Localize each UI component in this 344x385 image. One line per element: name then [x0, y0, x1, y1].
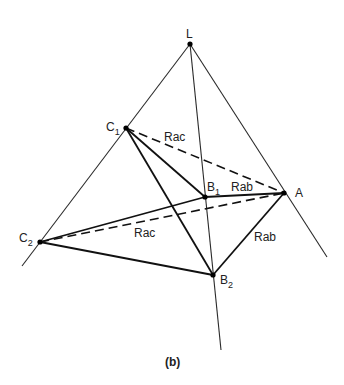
label-c2: C2 [19, 231, 33, 248]
label-rac-lower: Rac [134, 226, 155, 240]
ray-left [22, 44, 190, 266]
figure-caption: (b) [165, 355, 180, 369]
label-l: L [186, 27, 193, 41]
label-b2: B2 [220, 273, 233, 290]
label-c1: C1 [106, 120, 120, 137]
label-a: A [295, 186, 303, 200]
edge-c1-b2 [126, 128, 213, 275]
label-rab-upper: Rab [231, 180, 253, 194]
point-a [281, 190, 286, 195]
point-b2 [210, 272, 215, 277]
label-rab-lower: Rab [254, 230, 276, 244]
edge-c1-a-dashed [126, 128, 284, 193]
point-l [187, 41, 192, 46]
point-c2 [37, 239, 42, 244]
ray-right [190, 44, 327, 257]
label-rac-upper: Rac [164, 130, 185, 144]
point-b1 [202, 194, 207, 199]
geometry-diagram: L C1 B1 A C2 B2 Rac Rab Rac Rab (b) [0, 0, 344, 385]
edge-c2-b2 [40, 242, 213, 275]
label-b1: B1 [207, 180, 220, 197]
point-c1 [123, 125, 128, 130]
